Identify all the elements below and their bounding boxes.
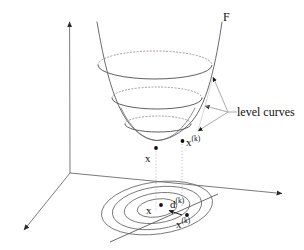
level-curve-top-back	[98, 51, 212, 65]
surface-iterate-label: x(k)	[186, 137, 200, 148]
paraboloid-left-arm	[97, 22, 157, 141]
level-curves-leader-lines	[198, 77, 237, 131]
axis-horizontal	[70, 173, 282, 194]
figure-canvas: F level curves x x(k) x d(k) x(k)	[0, 0, 304, 250]
level-curve-middle	[112, 87, 202, 109]
contour-ellipse-4	[98, 174, 216, 241]
level-curve-bottom-back	[125, 116, 191, 124]
contour-min-label: x	[146, 205, 152, 216]
level-curve-bottom	[125, 116, 191, 132]
search-direction-line	[110, 194, 218, 242]
leader-web-2	[205, 106, 228, 112]
surface-iterate-label-sup: (k)	[192, 134, 201, 143]
contour-plot	[98, 174, 216, 241]
contour-direction-label-sup: (k)	[176, 196, 185, 205]
axis-depth	[24, 173, 70, 230]
leader-line-top	[213, 77, 228, 112]
surface-iterate-dot	[181, 139, 185, 143]
contour-iterate-label: x(k)	[176, 219, 190, 230]
level-curve-top	[98, 51, 212, 79]
level-curve-top-front	[98, 65, 212, 79]
paraboloid-vertex-arc	[121, 108, 195, 141]
contour-iterate-label-sup: (k)	[182, 216, 191, 225]
axis-system	[24, 22, 282, 230]
paraboloid-right-arm	[157, 22, 222, 141]
level-curve-middle-back	[112, 87, 202, 98]
level-curve-middle-front	[112, 98, 202, 109]
surface-min-dot	[154, 146, 158, 150]
diagram-svg	[0, 0, 304, 250]
contour-direction-label: d(k)	[170, 199, 184, 210]
paraboloid-surface	[97, 22, 222, 141]
level-curves-label: level curves	[237, 106, 295, 118]
contour-min-dot	[159, 203, 163, 207]
function-label-F: F	[223, 11, 230, 23]
surface-min-label: x	[145, 153, 151, 164]
